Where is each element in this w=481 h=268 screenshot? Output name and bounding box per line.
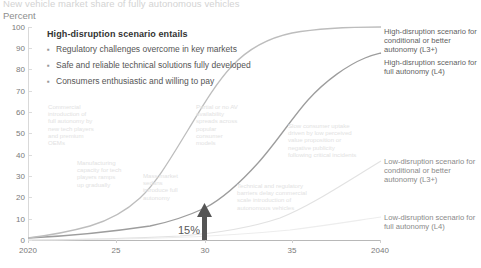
marker-arrow-layer bbox=[0, 0, 481, 268]
up-arrow-icon bbox=[197, 203, 212, 240]
chart-container: New vehicle market share of fully autono… bbox=[0, 0, 481, 268]
